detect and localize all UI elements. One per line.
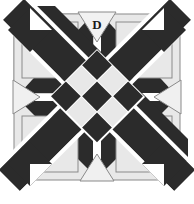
block-label-d: D [92, 17, 101, 32]
figure-root: D [0, 0, 194, 204]
quilt-block-diagram: D [0, 0, 194, 204]
